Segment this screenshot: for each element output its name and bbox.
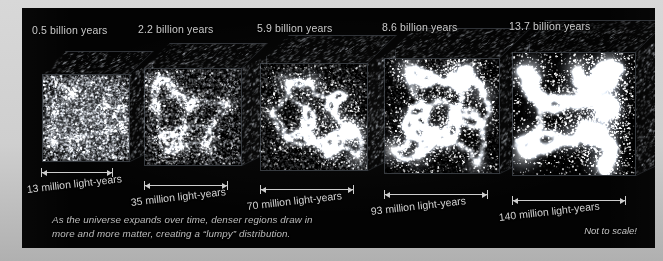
figure-caption: As the universe expands over time, dense… xyxy=(52,213,313,240)
matter-distribution-field xyxy=(385,59,499,173)
time-label-0: 0.5 billion years xyxy=(32,24,108,36)
cube-front-face xyxy=(384,58,500,174)
simulation-cube-4 xyxy=(512,52,636,176)
figure-root: 0.5 billion years 2.2 billion years 5.9 … xyxy=(0,0,663,261)
matter-distribution-field xyxy=(513,53,635,175)
simulation-cube-1 xyxy=(144,68,242,166)
cube-front-face xyxy=(42,74,130,162)
cube-front-face xyxy=(144,68,242,166)
caption-line-2: more and more matter, creating a “lumpy”… xyxy=(52,227,313,241)
cube-right-face xyxy=(636,36,655,176)
time-label-2: 5.9 billion years xyxy=(257,22,333,34)
simulation-cube-0 xyxy=(42,74,130,162)
caption-line-1: As the universe expands over time, dense… xyxy=(52,213,313,227)
simulation-cube-2 xyxy=(260,63,368,171)
cube-front-face xyxy=(512,52,636,176)
simulation-cube-3 xyxy=(384,58,500,174)
time-label-4: 13.7 billion years xyxy=(509,20,591,32)
matter-distribution-field xyxy=(43,75,129,161)
not-to-scale-note: Not to scale! xyxy=(584,225,637,236)
matter-distribution-field xyxy=(145,69,241,165)
time-label-1: 2.2 billion years xyxy=(138,23,214,35)
figure-panel: 0.5 billion years 2.2 billion years 5.9 … xyxy=(22,8,655,248)
matter-distribution-field xyxy=(261,64,367,170)
cube-front-face xyxy=(260,63,368,171)
time-label-3: 8.6 billion years xyxy=(382,21,458,33)
cube-face-matter xyxy=(636,37,655,175)
